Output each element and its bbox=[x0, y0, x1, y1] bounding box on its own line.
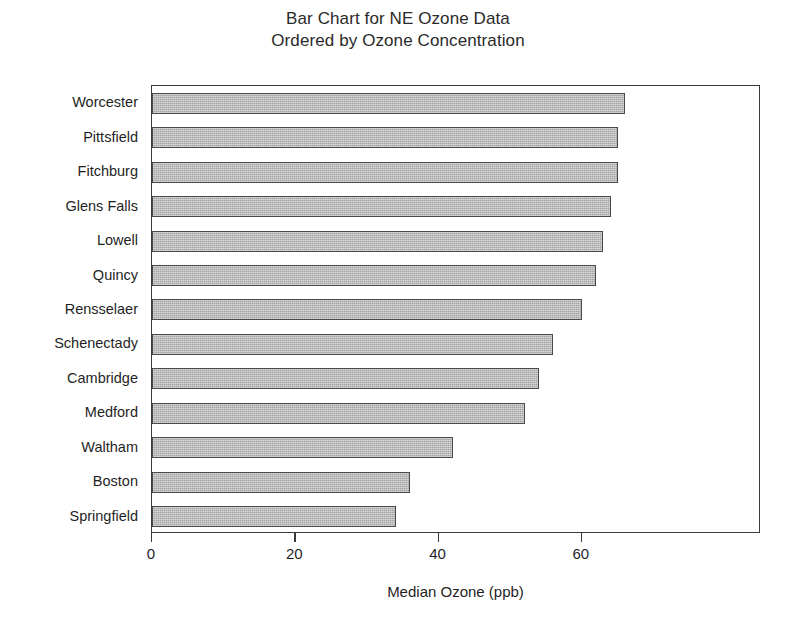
y-axis-label-pittsfield: Pittsfield bbox=[0, 129, 138, 145]
bar bbox=[152, 196, 611, 217]
bar-row bbox=[152, 258, 759, 292]
bar bbox=[152, 93, 625, 114]
bar-row bbox=[152, 500, 759, 534]
y-axis-label-waltham: Waltham bbox=[0, 439, 138, 455]
x-axis-title: Median Ozone (ppb) bbox=[151, 583, 760, 600]
bar-row bbox=[152, 465, 759, 499]
bar bbox=[152, 127, 618, 148]
bar-row bbox=[152, 224, 759, 258]
x-axis-tick-marks bbox=[151, 533, 760, 543]
bar bbox=[152, 299, 582, 320]
y-axis-label-glens-falls: Glens Falls bbox=[0, 198, 138, 214]
bars-layer bbox=[152, 86, 759, 532]
x-tick-label-20: 20 bbox=[286, 545, 303, 562]
plot-area bbox=[151, 85, 760, 533]
bar-row bbox=[152, 431, 759, 465]
chart-title-line-2: Ordered by Ozone Concentration bbox=[0, 30, 796, 52]
bar bbox=[152, 334, 553, 355]
bar bbox=[152, 265, 596, 286]
y-axis-label-quincy: Quincy bbox=[0, 267, 138, 283]
bar-row bbox=[152, 189, 759, 223]
x-tick-mark bbox=[151, 533, 152, 542]
bar-chart-figure: Bar Chart for NE Ozone Data Ordered by O… bbox=[0, 0, 796, 636]
y-axis-label-fitchburg: Fitchburg bbox=[0, 163, 138, 179]
x-tick-mark bbox=[438, 533, 439, 542]
chart-title-line-1: Bar Chart for NE Ozone Data bbox=[0, 8, 796, 30]
bar bbox=[152, 437, 453, 458]
bar-row bbox=[152, 120, 759, 154]
x-axis-tick-labels: 0204060 bbox=[151, 545, 760, 567]
bar-row bbox=[152, 155, 759, 189]
y-axis-label-rensselaer: Rensselaer bbox=[0, 301, 138, 317]
bar bbox=[152, 506, 396, 527]
y-axis-label-cambridge: Cambridge bbox=[0, 370, 138, 386]
chart-title: Bar Chart for NE Ozone Data Ordered by O… bbox=[0, 8, 796, 52]
bar bbox=[152, 472, 410, 493]
y-axis-label-boston: Boston bbox=[0, 473, 138, 489]
y-axis-label-medford: Medford bbox=[0, 404, 138, 420]
y-axis-category-labels: WorcesterPittsfieldFitchburgGlens FallsL… bbox=[0, 85, 145, 533]
y-axis-label-schenectady: Schenectady bbox=[0, 335, 138, 351]
bar-row bbox=[152, 362, 759, 396]
bar-row bbox=[152, 327, 759, 361]
x-tick-label-60: 60 bbox=[573, 545, 590, 562]
bar bbox=[152, 162, 618, 183]
y-axis-label-springfield: Springfield bbox=[0, 508, 138, 524]
bar bbox=[152, 403, 525, 424]
bar-row bbox=[152, 86, 759, 120]
bar-row bbox=[152, 293, 759, 327]
bar bbox=[152, 231, 603, 252]
x-tick-mark bbox=[581, 533, 582, 542]
x-tick-label-0: 0 bbox=[147, 545, 155, 562]
bar-row bbox=[152, 396, 759, 430]
y-axis-label-worcester: Worcester bbox=[0, 94, 138, 110]
bar bbox=[152, 368, 539, 389]
y-axis-label-lowell: Lowell bbox=[0, 232, 138, 248]
x-tick-mark bbox=[294, 533, 295, 542]
x-tick-label-40: 40 bbox=[429, 545, 446, 562]
